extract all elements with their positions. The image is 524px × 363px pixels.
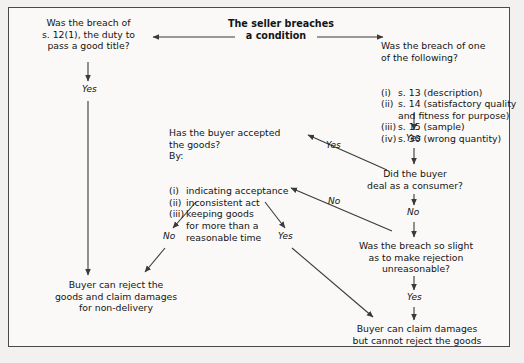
list-item-marker: (ii) bbox=[381, 98, 398, 110]
edge-label-accepted-no: No bbox=[163, 231, 175, 241]
list-item-text: inconsistent act bbox=[186, 197, 260, 208]
list-item-text: for more than a bbox=[186, 220, 259, 231]
list-item-text: keeping goods bbox=[186, 208, 254, 219]
node-question-one-of-following-head: Was the breach of one of the following? bbox=[381, 40, 521, 63]
list-item-marker: (ii) bbox=[169, 197, 186, 209]
node-question-one-of-following: Was the breach of one of the following? … bbox=[381, 17, 521, 168]
node-outcome-reject-goods: Buyer can reject the goods and claim dam… bbox=[26, 279, 206, 314]
node-question-deal-as-consumer: Did the buyer deal as a consumer? bbox=[350, 168, 480, 191]
list-item: (iv)s. 30 (wrong quantity) bbox=[381, 133, 521, 145]
list-item-text: s. 13 (description) bbox=[398, 87, 483, 98]
diagram-page: The seller breaches a condition Was the … bbox=[0, 0, 524, 363]
list-item-text: indicating acceptance bbox=[186, 185, 288, 196]
node-seller-breaches-condition: The seller breaches a condition bbox=[228, 18, 324, 41]
list-item-marker: (i) bbox=[381, 87, 398, 99]
list-item-marker: (iii) bbox=[169, 208, 186, 220]
edge-label-left-yes: Yes bbox=[82, 84, 97, 94]
edge-label-consumer-no: No bbox=[407, 207, 419, 217]
node-question-one-of-following-list: (i)s. 13 (description)(ii)s. 14 (satisfa… bbox=[381, 87, 521, 145]
list-item: and fitness for purpose) bbox=[381, 110, 521, 122]
list-item-text: s. 14 (satisfactory quality bbox=[398, 98, 516, 109]
edge-label-accepted-yes: Yes bbox=[278, 231, 293, 241]
list-item-text: reasonable time bbox=[186, 232, 261, 243]
list-item-text: s. 15 (sample) bbox=[398, 121, 465, 132]
node-question-buyer-accepted: Has the buyer accepted the goods? By: (i… bbox=[169, 104, 309, 266]
list-item: (ii)s. 14 (satisfactory quality bbox=[381, 98, 521, 110]
list-item: for more than a bbox=[169, 220, 309, 232]
node-question-section-12: Was the breach of s. 12(1), the duty to … bbox=[20, 17, 157, 52]
list-item: (ii)inconsistent act bbox=[169, 197, 309, 209]
edge-label-slight-no: No bbox=[328, 196, 340, 206]
list-item-marker: (iv) bbox=[381, 133, 398, 145]
edge-label-slight-yes: Yes bbox=[407, 292, 422, 302]
list-item: (i)s. 13 (description) bbox=[381, 87, 521, 99]
list-item: (iii)keeping goods bbox=[169, 208, 309, 220]
list-item-marker: (i) bbox=[169, 185, 186, 197]
list-item-marker: (iii) bbox=[381, 121, 398, 133]
list-item-text: and fitness for purpose) bbox=[398, 110, 509, 121]
node-question-breach-so-slight: Was the breach so slight as to make reje… bbox=[346, 240, 486, 275]
edge-label-following-yes: Yes bbox=[406, 133, 421, 143]
list-item: (i)indicating acceptance bbox=[169, 185, 309, 197]
node-question-buyer-accepted-head: Has the buyer accepted the goods? By: bbox=[169, 127, 309, 162]
list-item: (iii)s. 15 (sample) bbox=[381, 121, 521, 133]
edge-label-consumer-yes: Yes bbox=[326, 140, 341, 150]
node-outcome-claim-damages: Buyer can claim damages but cannot rejec… bbox=[322, 323, 512, 346]
